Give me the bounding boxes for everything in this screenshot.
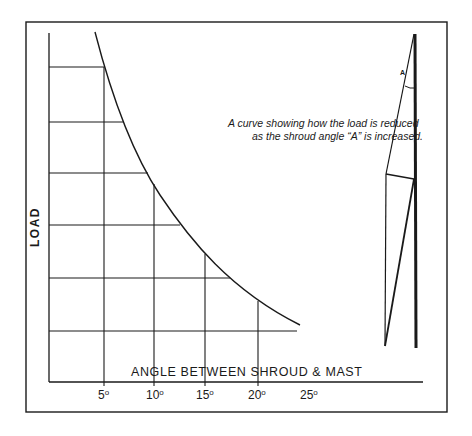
annotation-line-1: A curve showing how the load is reduced (227, 117, 420, 129)
vertical-gridlines (104, 67, 258, 386)
spreader (386, 174, 414, 179)
upper-shroud (386, 34, 414, 174)
annotation-line-2: as the shroud angle “A” is increased. (252, 130, 423, 142)
svg-text:15o: 15o (196, 388, 214, 402)
horizontal-gridlines (49, 67, 297, 331)
lower-shroud-vertical (385, 174, 386, 346)
x-tick-labels: 5o 10o 15o 20o 25o (98, 388, 318, 402)
y-axis-label: LOAD (28, 207, 42, 247)
mast-shroud-diagram (385, 34, 416, 348)
load-curve (95, 32, 300, 325)
angle-arc (405, 86, 415, 88)
svg-text:5o: 5o (98, 388, 110, 402)
mast (415, 34, 416, 348)
lower-shroud-diagonal (385, 179, 414, 346)
outer-frame (26, 22, 447, 412)
svg-text:10o: 10o (146, 388, 164, 402)
angle-a-label: A (400, 69, 405, 76)
x-axis-label: ANGLE BETWEEN SHROUD & MAST (131, 365, 363, 379)
load-vs-angle-diagram: A curve showing how the load is reduced … (0, 0, 472, 436)
svg-text:25o: 25o (300, 388, 318, 402)
svg-text:20o: 20o (248, 388, 266, 402)
